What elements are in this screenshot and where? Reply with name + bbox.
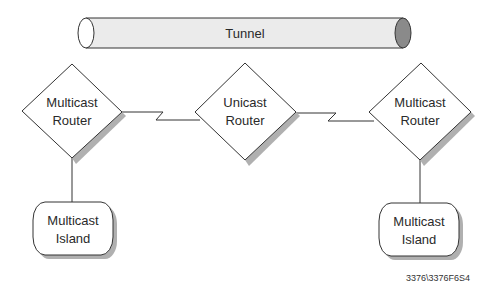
tunnel-left-end bbox=[78, 18, 94, 48]
island-shape bbox=[33, 202, 113, 255]
figure-id: 3376\3376F6S4 bbox=[406, 273, 470, 283]
router-label-line2: Router bbox=[52, 113, 92, 128]
island-label-line1: Multicast bbox=[393, 214, 445, 229]
router-label-line1: Unicast bbox=[223, 95, 267, 110]
router-diamond bbox=[369, 63, 471, 160]
router-label-line1: Multicast bbox=[394, 95, 446, 110]
multicast-island-right: Multicast Island bbox=[379, 203, 463, 260]
router-diamond bbox=[22, 64, 122, 158]
router-label-line2: Router bbox=[400, 113, 440, 128]
island-label-line2: Island bbox=[402, 232, 437, 247]
router-diamond bbox=[195, 63, 296, 160]
island-label-line2: Island bbox=[56, 231, 91, 246]
diagram-canvas: Tunnel Multicast Router Unicast Router M… bbox=[0, 0, 494, 291]
multicast-island-left: Multicast Island bbox=[33, 202, 117, 259]
tunnel: Tunnel bbox=[78, 18, 411, 48]
router-label-line2: Router bbox=[225, 113, 265, 128]
tunnel-label: Tunnel bbox=[225, 26, 264, 41]
serial-link-right bbox=[296, 113, 374, 121]
multicast-router-left: Multicast Router bbox=[22, 64, 126, 164]
unicast-router-center: Unicast Router bbox=[195, 63, 300, 166]
serial-link-left bbox=[122, 112, 200, 120]
island-shape bbox=[379, 203, 459, 256]
multicast-router-right: Multicast Router bbox=[369, 63, 475, 166]
island-label-line1: Multicast bbox=[47, 213, 99, 228]
tunnel-right-end bbox=[395, 18, 411, 48]
router-label-line1: Multicast bbox=[46, 95, 98, 110]
